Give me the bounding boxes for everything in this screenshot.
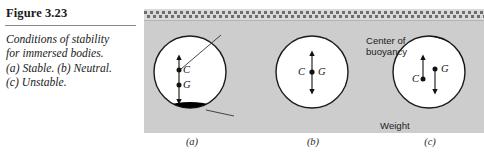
figure-caption-block: Figure 3.23 Conditions of stability for … — [4, 6, 138, 90]
body-c-point-g — [433, 67, 438, 72]
weight-label: Weight — [380, 121, 410, 132]
figure-caption-text: Conditions of stability for immersed bod… — [4, 33, 138, 90]
caption-line-3: (a) Stable. (b) Neutral. — [6, 62, 138, 76]
figure-number: Figure 3.23 — [4, 6, 138, 21]
body-b-point-cg — [309, 69, 314, 74]
body-c-point-c — [421, 77, 426, 82]
center-of-buoyancy-line-1: Center of — [366, 36, 407, 47]
body-a-weight-region — [156, 102, 224, 128]
caption-divider — [5, 25, 136, 26]
body-a-label-c: C — [183, 64, 190, 75]
immersed-bodies-diagram — [144, 9, 484, 133]
body-a-group — [154, 35, 234, 128]
sub-label-b: (b) — [298, 136, 328, 147]
body-a-point-g — [177, 83, 182, 88]
weight-leader-line — [206, 110, 234, 116]
body-c-label-c: C — [412, 73, 419, 84]
body-a-label-g: G — [183, 79, 191, 90]
body-b-label-g: G — [318, 66, 326, 77]
body-b-label-c: C — [298, 66, 305, 77]
center-of-buoyancy-line-2: buoyancy — [366, 47, 407, 58]
body-a-point-c — [177, 68, 182, 73]
caption-line-1: Conditions of stability — [6, 33, 138, 47]
figure-panel: Center of buoyancy Weight C G C G C G — [144, 9, 484, 133]
body-b-group — [276, 36, 348, 108]
body-c-label-g: G — [441, 63, 449, 74]
center-of-buoyancy-label: Center of buoyancy — [366, 36, 407, 57]
sub-label-a: (a) — [177, 136, 207, 147]
caption-line-4: (c) Unstable. — [6, 76, 138, 90]
caption-line-2: for immersed bodies. — [6, 47, 138, 61]
sub-label-c: (c) — [415, 136, 445, 147]
